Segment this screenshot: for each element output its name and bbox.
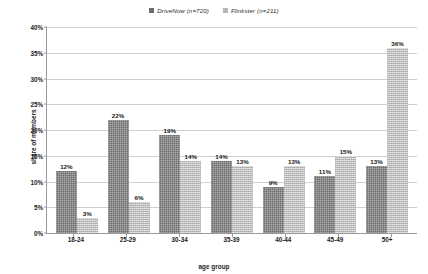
y-axis-tick-label: 40% [30,24,43,31]
x-axis-title: age group [0,263,428,270]
y-axis-tick-label: 15% [30,152,43,159]
y-axis-tick-label: 10% [30,178,43,185]
bar-value-label: 19% [164,127,176,134]
y-axis-tick-label: 35% [30,49,43,56]
bar-value-label: 14% [185,153,197,160]
bar-slot: 12% [56,27,77,233]
bar-group: 19%14% [159,27,201,233]
bar-slot: 14% [211,27,232,233]
bar-slot: 13% [366,27,387,233]
y-axis-tick-label: 5% [34,204,43,211]
bar[interactable]: 22% [108,120,129,233]
x-axis-tick-label: 30-34 [159,236,201,250]
bar[interactable]: 14% [180,161,201,233]
bar-value-label: 9% [269,179,278,186]
bar[interactable]: 14% [211,161,232,233]
bar[interactable]: 6% [129,202,150,233]
legend-entry-flinkster: Flinkster (n=211) [223,7,279,14]
bar-slot: 19% [159,27,180,233]
bar-value-label: 3% [83,210,92,217]
bar-value-label: 14% [215,153,227,160]
x-axis-tick-label: 18-24 [55,236,97,250]
bar-slot: 14% [180,27,201,233]
x-axis-tick-label: 45-49 [314,236,356,250]
x-axis-tick-label: 35-39 [210,236,252,250]
y-axis-tick-label: 20% [30,127,43,134]
bar-value-label: 13% [288,158,300,165]
bar[interactable]: 12% [56,171,77,233]
bar-slot: 11% [314,27,335,233]
bar-group: 14%13% [211,27,253,233]
bar[interactable]: 13% [232,166,253,233]
bar-group: 11%15% [314,27,356,233]
y-axis-tick-label: 0% [34,230,43,237]
bar-slot: 13% [284,27,305,233]
bar[interactable]: 11% [314,176,335,233]
legend-label-flinkster: Flinkster (n=211) [231,7,279,14]
bar-value-label: 22% [112,112,124,119]
bar-slot: 22% [108,27,129,233]
bar[interactable]: 19% [159,135,180,233]
x-axis-tick-labels: 18-2425-2930-3435-3940-4445-4950+ [46,236,417,250]
bar-chart: DriveNow (n=720) Flinkster (n=211) share… [0,0,428,274]
plot-frame: 0%5%10%15%20%25%30%35%40% 12%3%22%6%19%1… [46,27,417,234]
bar-value-label: 15% [340,148,352,155]
bar-group: 22%6% [108,27,150,233]
bar-groups: 12%3%22%6%19%14%14%13%9%13%11%15%13%36% [47,27,417,233]
x-axis-tick-label: 40-44 [262,236,304,250]
bar[interactable]: 15% [335,156,356,233]
legend-swatch-icon [149,8,154,13]
bar-value-label: 36% [391,40,403,47]
plot-area: 0%5%10%15%20%25%30%35%40% 12%3%22%6%19%1… [46,27,417,234]
bar-slot: 13% [232,27,253,233]
bar[interactable]: 13% [366,166,387,233]
bar[interactable]: 3% [77,218,98,233]
chart-legend: DriveNow (n=720) Flinkster (n=211) [0,7,428,14]
legend-entry-drivenow: DriveNow (n=720) [149,7,209,14]
bar-slot: 6% [129,27,150,233]
legend-label-drivenow: DriveNow (n=720) [157,7,209,14]
y-axis-tick-label: 25% [30,101,43,108]
x-axis-tick-label: 25-29 [107,236,149,250]
bar-slot: 9% [263,27,284,233]
x-axis-tick-label: 50+ [366,236,408,250]
bar-value-label: 11% [319,168,331,175]
bar-group: 13%36% [366,27,408,233]
bar-slot: 36% [387,27,408,233]
bar[interactable]: 36% [387,48,408,233]
bar-slot: 3% [77,27,98,233]
y-axis-tick-label: 30% [30,75,43,82]
bar-value-label: 13% [370,158,382,165]
legend-swatch-icon [223,8,228,13]
bar-value-label: 12% [60,163,72,170]
bar-group: 9%13% [263,27,305,233]
bar-value-label: 13% [236,158,248,165]
bar-slot: 15% [335,27,356,233]
bar[interactable]: 13% [284,166,305,233]
bar-group: 12%3% [56,27,98,233]
bar-value-label: 6% [135,194,144,201]
bar[interactable]: 9% [263,187,284,233]
